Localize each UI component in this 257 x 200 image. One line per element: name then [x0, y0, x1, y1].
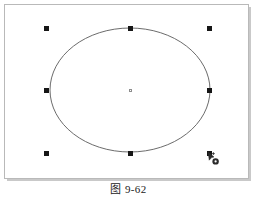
grip-top-right[interactable]	[207, 26, 212, 31]
mouse-pointer-cursor	[207, 151, 223, 168]
grip-center[interactable]	[129, 89, 132, 92]
grip-bottom-left[interactable]	[44, 151, 49, 156]
cursor-blob-hole-icon	[215, 160, 217, 162]
figure-caption: 图 9-62	[0, 181, 257, 198]
frame-shadow-right	[249, 7, 251, 181]
grip-middle-right[interactable]	[207, 88, 212, 93]
grip-top-center[interactable]	[128, 26, 133, 31]
grip-top-left[interactable]	[44, 26, 49, 31]
cursor-sparkle-icon	[212, 152, 215, 155]
drawing-canvas[interactable]	[8, 8, 245, 175]
grip-bottom-center[interactable]	[128, 151, 133, 156]
grip-middle-left[interactable]	[44, 88, 49, 93]
figure-container: 图 9-62	[0, 0, 257, 200]
